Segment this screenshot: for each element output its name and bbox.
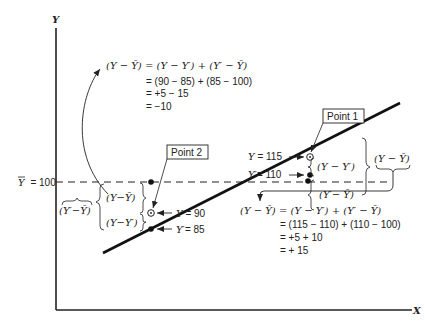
point2-brace-lower [140,214,146,231]
point2-observed-center [150,212,152,214]
point1-brace-upper-label: (Y − Y′) [317,161,355,172]
point2-brace-upper-label: (Y−Ȳ) [106,192,135,203]
top-eq-line4: = −10 [146,101,172,112]
top-eq-line3: = +5 − 15 [146,88,189,99]
point1-observed-label: Y = 115 [248,151,282,162]
point2-observed-label: Y = 90 [176,208,206,219]
point2-big-brace [96,184,104,230]
point2-overbrace [62,198,92,205]
regression-deviation-diagram: Y X Y = 100 Point 2 Y = 90 Y′= 85 [0,0,425,325]
top-eq-line2: = (90 − 85) + (85 − 100) [146,76,252,87]
y-axis-label: Y [52,14,60,25]
point2-predicted-dot [148,226,154,232]
mean-line-group: Y = 100 [18,177,392,188]
top-equation: (Y − Ȳ) = (Y − Y′) + (Y′ − Ȳ) = (90 − 85… [106,60,252,112]
top-eq-line1: (Y − Ȳ) = (Y − Y′) + (Y′ − Ȳ) [106,60,247,71]
bottom-eq-line3: = +5 + 10 [280,232,323,243]
bottom-eq-line4: = + 15 [280,245,309,256]
point2-label-pointer [153,159,167,208]
point2-predicted-label: Y′= 85 [176,224,205,235]
point1-brace-total-label: (Y − Ȳ) [374,153,410,164]
point2-label: Point 2 [171,147,203,158]
bottom-eq-line1: (Y − Ȳ) = (Y − Y′) + (Y′ − Ȳ) [240,205,381,216]
point1-label: Point 1 [327,111,359,122]
x-axis-label: X [412,305,422,316]
point2-brace-total-label: (Y′−Ȳ) [59,205,91,216]
point1-base-dot [305,178,311,184]
point1-observed-center [309,156,311,158]
point2-group: Point 2 Y = 90 Y′= 85 (Y−Ȳ) (Y−Y′) (Y′−Ȳ… [59,145,208,235]
point1-predicted-label: Y′= 110 [248,169,282,180]
point1-underbrace [376,165,410,172]
bottom-equation: (Y − Ȳ) = (Y − Y′) + (Y′ − Ȳ) = (115 − 1… [240,205,401,256]
top-curved-arrow [82,69,108,194]
point1-label-pointer [311,123,323,152]
bottom-eq-line2: = (115 − 110) + (110 − 100) [280,219,401,230]
point1-group: Point 1 Y = 115 Y′= 110 (Y − Y′) (Y′− Ȳ)… [248,109,410,210]
point2-mean-dot [148,179,154,185]
point2-brace-lower-label: (Y−Y′) [106,217,138,228]
mean-line-label: Y = 100 [18,177,56,188]
point2-brace-upper [140,183,146,213]
point1-big-brace [362,138,370,195]
